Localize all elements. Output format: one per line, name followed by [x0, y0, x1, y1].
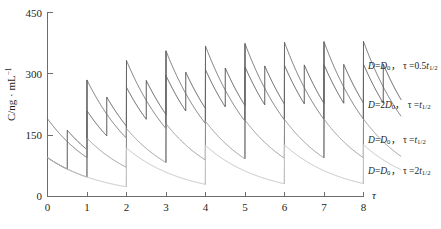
x-tick-label-1: 1	[84, 201, 90, 213]
y-tick-label-300: 300	[26, 68, 43, 80]
y-tick-label-150: 150	[26, 129, 43, 141]
curve-series-3	[48, 119, 401, 177]
y-axis-title: C/ng · mL−1	[5, 59, 18, 129]
chart-container: 0 150 300 450 0 1 2 3 4 5 6 7 8 τ C/ng ·…	[0, 0, 441, 229]
y-tick-label-0: 0	[37, 190, 43, 202]
legend-label-series-2: D=2D0， τ =t1/2	[368, 101, 431, 111]
curve-series-1	[48, 64, 401, 169]
x-tick-label-6: 6	[282, 201, 288, 213]
y-tick-label-450: 450	[26, 7, 43, 19]
legend-label-series-4: D=D0， τ =2t1/2	[368, 167, 431, 177]
y-axis-title-text: C/ng · mL	[5, 75, 17, 121]
x-tick-label-3: 3	[163, 201, 169, 213]
x-tick-label-5: 5	[242, 201, 248, 213]
curves-layer	[48, 41, 401, 186]
x-tick-label-4: 4	[203, 201, 209, 213]
y-axis-title-exponent: −1	[5, 68, 13, 76]
chart-svg: 0 150 300 450 0 1 2 3 4 5 6 7 8 τ	[0, 0, 441, 229]
x-tick-label-0: 0	[45, 201, 51, 213]
y-tick-marks	[48, 13, 53, 197]
x-axis-title: τ	[372, 189, 377, 201]
legend-label-series-1: D=D0， τ =0.5t1/2	[368, 62, 438, 72]
y-tick-labels: 0 150 300 450	[26, 7, 43, 203]
x-tick-label-7: 7	[321, 201, 327, 213]
legend-label-series-3: D=D0， τ =t1/2	[368, 136, 426, 146]
x-tick-label-2: 2	[124, 201, 130, 213]
x-tick-label-8: 8	[361, 201, 367, 213]
x-tick-labels: 0 1 2 3 4 5 6 7 8	[45, 201, 367, 213]
curve-series-2	[48, 41, 401, 157]
x-tick-marks	[48, 192, 364, 197]
